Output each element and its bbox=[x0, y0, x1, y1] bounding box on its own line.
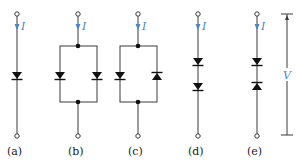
terminal-top bbox=[196, 12, 200, 16]
terminal-top bbox=[255, 12, 259, 16]
diode-icon bbox=[92, 72, 103, 80]
circuit-d: I (d) bbox=[188, 12, 207, 158]
terminal-top bbox=[76, 12, 80, 16]
terminal-bottom bbox=[15, 134, 19, 138]
junction-node bbox=[136, 44, 141, 49]
current-arrow-icon bbox=[76, 24, 81, 30]
voltage-label: V bbox=[283, 69, 292, 82]
diode-reverse-icon bbox=[252, 83, 263, 91]
figure-label-b: (b) bbox=[68, 145, 84, 158]
current-arrow-icon bbox=[196, 24, 201, 30]
parallel-loop bbox=[60, 46, 97, 102]
current-label: I bbox=[81, 20, 87, 33]
junction-node bbox=[136, 100, 141, 105]
circuit-c: I (c) bbox=[115, 12, 163, 158]
diode-circuits-figure: I (a) I (b) I (c) I bbox=[0, 0, 307, 164]
circuit-b: I (b) bbox=[55, 12, 103, 158]
diode-icon bbox=[193, 83, 204, 91]
diode-reverse-icon bbox=[152, 73, 163, 81]
terminal-top bbox=[15, 12, 19, 16]
current-arrow-icon bbox=[255, 24, 260, 30]
current-label: I bbox=[260, 20, 266, 33]
voltage-arrow-icon bbox=[285, 15, 289, 20]
terminal-bottom bbox=[255, 134, 259, 138]
current-arrow-icon bbox=[15, 24, 20, 30]
diode-icon bbox=[115, 72, 126, 80]
junction-node bbox=[76, 44, 81, 49]
figure-label-a: (a) bbox=[7, 145, 22, 158]
figure-label-c: (c) bbox=[128, 145, 143, 158]
diode-icon bbox=[12, 72, 23, 80]
current-label: I bbox=[201, 20, 207, 33]
terminal-bottom bbox=[136, 134, 140, 138]
current-arrow-icon bbox=[136, 24, 141, 30]
diode-icon bbox=[193, 58, 204, 66]
parallel-loop bbox=[120, 46, 157, 102]
circuit-a: I (a) bbox=[7, 12, 26, 158]
junction-node bbox=[76, 100, 81, 105]
terminal-bottom bbox=[196, 134, 200, 138]
terminal-top bbox=[136, 12, 140, 16]
diode-icon bbox=[252, 58, 263, 66]
terminal-bottom bbox=[76, 134, 80, 138]
current-label: I bbox=[141, 20, 147, 33]
current-label: I bbox=[20, 20, 26, 33]
diode-icon bbox=[55, 72, 66, 80]
figure-label-d: (d) bbox=[188, 145, 204, 158]
figure-label-e: (e) bbox=[247, 145, 262, 158]
circuit-e: I V (e) bbox=[247, 12, 293, 158]
